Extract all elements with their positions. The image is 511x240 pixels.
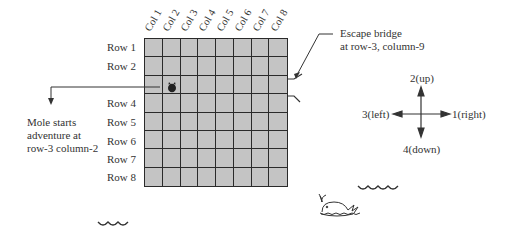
bridge-arrow	[298, 34, 333, 73]
bridge-annotation: Escape bridge at row-3, column-9	[340, 27, 425, 53]
bridge-annotation-line-2: at row-3, column-9	[340, 40, 425, 53]
start-annotation-line-2: adventure at	[27, 129, 98, 142]
wave-icon	[98, 222, 128, 225]
start-annotation-line-3: row-3 column-2	[27, 142, 98, 155]
start-annotation-line-1: Mole starts	[27, 116, 98, 129]
wave-icon	[358, 186, 398, 189]
compass-left-label: 3(left)	[362, 108, 389, 121]
compass-right-label: 1(right)	[452, 108, 486, 121]
compass-down-label: 4(down)	[403, 143, 440, 156]
escape-bridge	[288, 74, 302, 102]
compass-up-label: 2(up)	[410, 72, 434, 85]
start-arrow	[51, 87, 160, 99]
arrow-head-down-icon	[48, 98, 54, 105]
bridge-annotation-line-1: Escape bridge	[340, 27, 425, 40]
whale-icon	[319, 194, 360, 216]
mole-icon	[168, 82, 176, 92]
start-annotation: Mole starts adventure at row-3 column-2	[27, 116, 98, 155]
compass-icon	[393, 87, 450, 137]
